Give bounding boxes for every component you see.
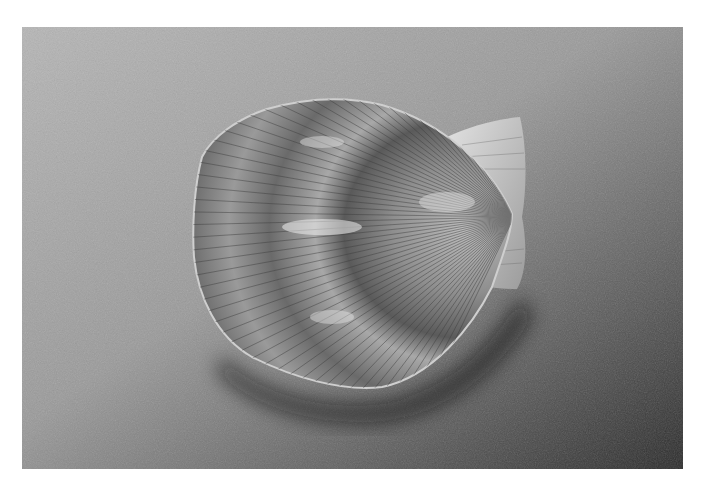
highlight-1 <box>282 219 362 235</box>
highlight-2 <box>300 136 344 148</box>
scallop-photo-svg <box>22 27 683 469</box>
photograph <box>22 27 683 469</box>
highlight-3 <box>310 310 354 324</box>
umbo-highlight <box>419 192 475 212</box>
